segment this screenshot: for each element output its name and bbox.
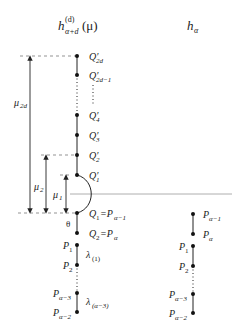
svg-text:α−1: α−1	[114, 214, 126, 222]
svg-text:1: 1	[96, 176, 100, 184]
svg-text:1: 1	[69, 246, 73, 254]
svg-text:α−3: α−3	[175, 295, 187, 303]
svg-text:2: 2	[69, 266, 73, 274]
svg-text:1: 1	[59, 194, 63, 202]
svg-text:α−2: α−2	[59, 313, 71, 321]
svg-text:α: α	[114, 234, 118, 242]
svg-text:λ: λ	[85, 296, 91, 307]
svg-text:λ: λ	[85, 249, 91, 260]
svg-text:α−1: α−1	[209, 215, 221, 223]
svg-text:2: 2	[185, 267, 189, 275]
lambda-labels: λ (1) λ (α−3)	[85, 249, 109, 310]
svg-text:=P: =P	[100, 208, 113, 219]
svg-text:α−2: α−2	[175, 314, 187, 322]
svg-text:μ: μ	[33, 181, 39, 192]
dashed-guides	[18, 56, 77, 213]
svg-text:=P: =P	[100, 228, 113, 239]
header-left: h (d) α+d (μ)	[58, 15, 98, 36]
svg-text:2d: 2d	[20, 102, 28, 110]
svg-text:μ: μ	[52, 189, 58, 200]
svg-text:3: 3	[95, 136, 100, 144]
left-bottom-labels: P 1 P 2 P α−3 P α−2	[52, 240, 73, 321]
svg-text:4: 4	[96, 116, 100, 124]
svg-text:2d−1: 2d−1	[96, 76, 111, 84]
svg-text:α: α	[209, 235, 213, 243]
svg-text:(α−3): (α−3)	[92, 302, 109, 310]
left-top-labels: Q′ 2d Q′ 2d−1 Q′ 4 Q′ 3 Q′ 2 Q′ 1	[89, 51, 111, 184]
svg-text:1: 1	[185, 247, 189, 255]
svg-text:α+d: α+d	[65, 27, 80, 36]
left-column-lines	[77, 56, 93, 312]
svg-text:h: h	[187, 18, 194, 33]
svg-text:(1): (1)	[92, 255, 101, 263]
header-right: h α	[187, 18, 199, 35]
svg-text:(μ): (μ)	[82, 18, 98, 33]
svg-text:h: h	[58, 18, 65, 33]
theta-label: θ	[66, 219, 70, 229]
mu-labels: μ 2d μ 2 μ 1	[13, 97, 63, 202]
svg-text:2d: 2d	[96, 57, 104, 65]
svg-text:2: 2	[96, 156, 100, 164]
diagram-canvas: h (d) α+d (μ) h α μ 2d μ 2 μ 1	[0, 0, 241, 332]
svg-text:α: α	[194, 26, 199, 35]
svg-text:μ: μ	[13, 97, 19, 108]
svg-text:2: 2	[40, 186, 44, 194]
svg-text:α−3: α−3	[59, 294, 71, 302]
svg-text:(d): (d)	[65, 15, 75, 24]
